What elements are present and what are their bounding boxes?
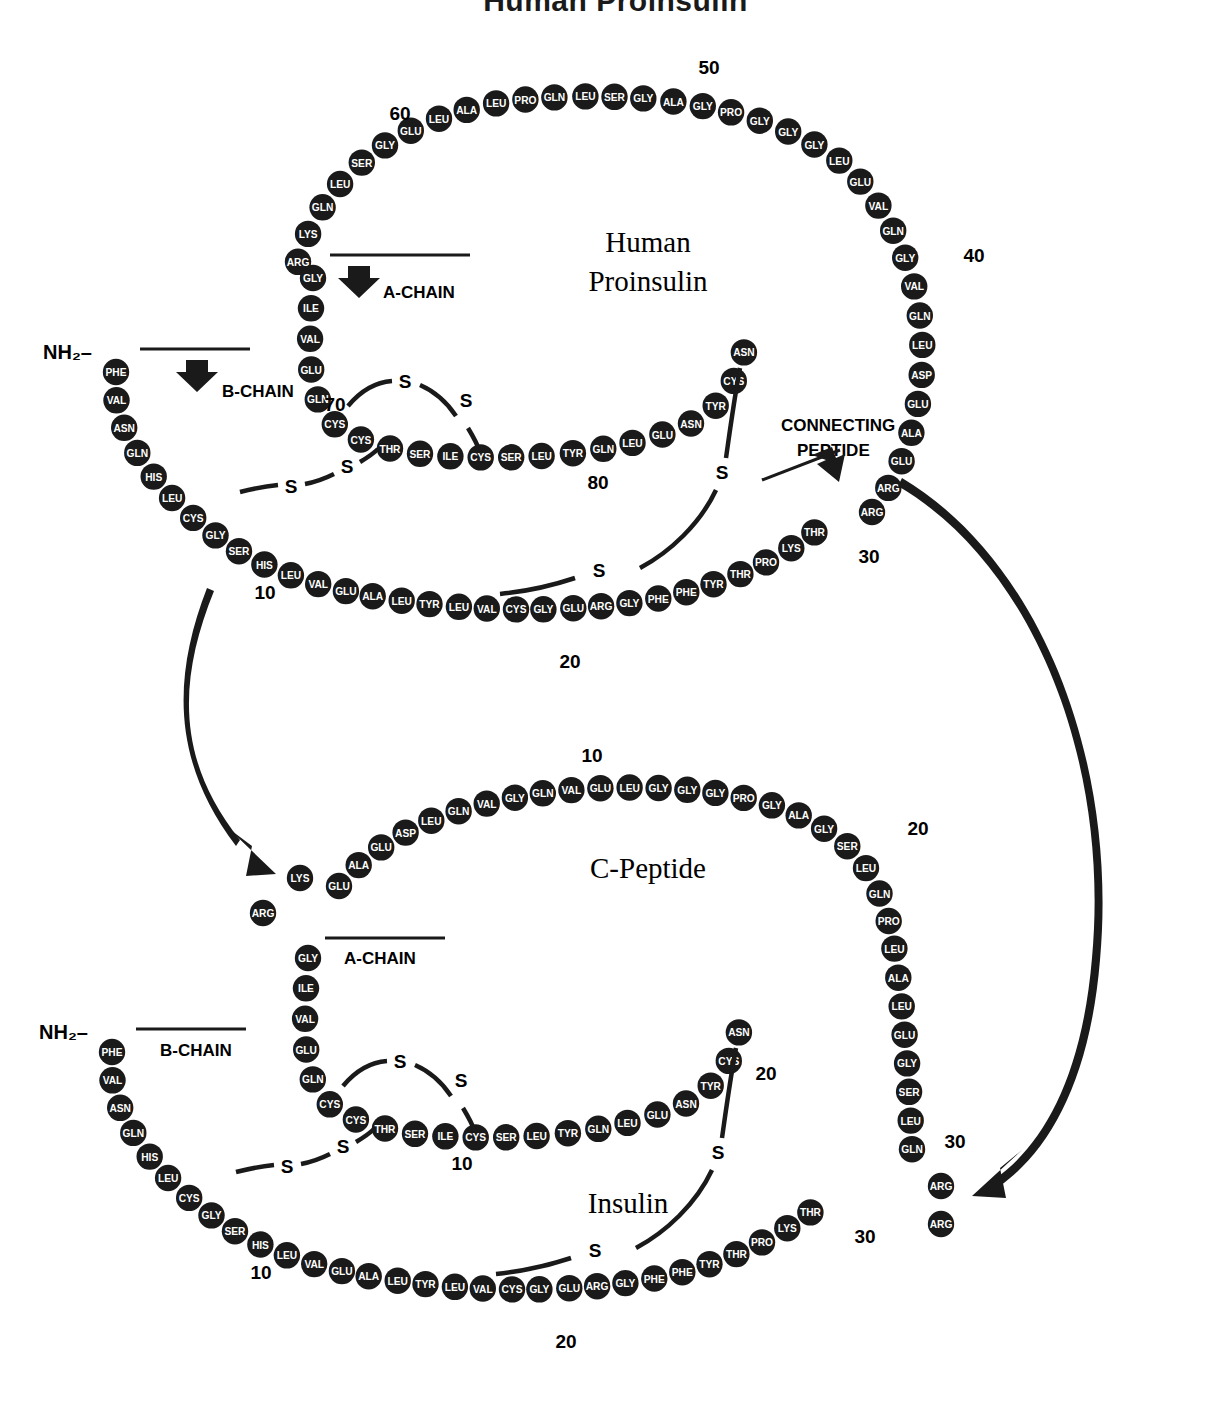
s-label-a6a11-right: S <box>460 390 473 411</box>
s-label-ins-a20b19-lower: S <box>589 1240 602 1261</box>
residue-label: TYR <box>699 1259 720 1270</box>
residue-glu-21: GLU <box>560 595 586 621</box>
residue-thr-30: THR <box>801 519 827 545</box>
residue-label: LEU <box>575 91 595 102</box>
residue-his-5: HIS <box>141 463 167 489</box>
residue-ser-9: SER <box>226 538 252 564</box>
residue-gly-20: GLY <box>526 1276 552 1302</box>
residue-ala-27: ALA <box>454 97 480 123</box>
residue-pro-28: PRO <box>749 1229 775 1255</box>
residue-arg-1: ARG <box>928 1173 954 1199</box>
residue-label: CYS <box>345 1115 366 1126</box>
residue-val-18: VAL <box>470 1275 496 1301</box>
residue-label: ASP <box>395 828 416 839</box>
residue-cys-7: CYS <box>348 426 374 452</box>
residue-label: ALA <box>663 97 685 108</box>
residue-leu-15: LEU <box>389 588 415 614</box>
residue-label: ASN <box>733 347 755 358</box>
number-40-proinsulin: 40 <box>963 245 984 266</box>
b-chain-label-insulin: B-CHAIN <box>160 1041 232 1060</box>
residue-asn-21: ASN <box>726 1019 752 1045</box>
residue-label: ASN <box>109 1103 131 1114</box>
panel-title-proinsulin-line1: Human <box>605 226 691 258</box>
residue-label: LYS <box>291 873 310 884</box>
s-label-a20b19-lower: S <box>593 560 606 581</box>
residue-leu-26: LEU <box>889 993 915 1019</box>
residue-ala-20: ALA <box>660 88 686 114</box>
residue-label: PHE <box>672 1267 693 1278</box>
residue-gly-19: GLY <box>690 93 716 119</box>
residue-glu-4: GLU <box>293 1036 319 1062</box>
residue-label: THR <box>375 1124 397 1135</box>
residue-label: ASN <box>728 1027 750 1038</box>
residue-asp-6: ASP <box>909 362 935 388</box>
residue-label: THR <box>726 1249 748 1260</box>
residue-leu-30: LEU <box>898 1107 924 1133</box>
residue-label: THR <box>804 527 826 538</box>
residue-label: LYS <box>778 1223 797 1234</box>
residue-label: LEU <box>617 1118 637 1129</box>
residue-label: LEU <box>392 596 412 607</box>
residue-label: CYS <box>324 419 345 430</box>
residue-arg-2: ARG <box>928 1211 954 1237</box>
residue-label: LEU <box>884 944 904 955</box>
residue-thr-8: THR <box>377 435 403 461</box>
bond-ins-a6-a11-mid <box>415 1065 451 1096</box>
residue-label: LEU <box>912 340 932 351</box>
residue-label: GLY <box>649 783 669 794</box>
residue-label: PHE <box>648 594 669 605</box>
residue-label: ARG <box>590 601 613 612</box>
residue-glu-5: GLU <box>905 391 931 417</box>
residue-gln-15: GLN <box>585 1116 611 1142</box>
residue-ile-10: ILE <box>437 443 463 469</box>
residue-label: HIS <box>256 560 273 571</box>
residue-arg-1: ARG <box>859 499 885 525</box>
number-20-insulin-bchain: 20 <box>555 1331 576 1352</box>
residue-label: CYS <box>502 1284 523 1295</box>
s-label-ins-a7b7-right: S <box>337 1136 350 1157</box>
residue-thr-27: THR <box>723 1241 749 1267</box>
residue-label: ALA <box>456 105 478 116</box>
residue-leu-32: LEU <box>327 171 353 197</box>
residue-label: ARG <box>287 257 310 268</box>
b-chain-arrow-icon <box>176 360 218 392</box>
number-50-proinsulin: 50 <box>698 57 719 78</box>
panel-title-insulin: Insulin <box>588 1187 669 1219</box>
residue-label: GLY <box>201 1210 221 1221</box>
residue-phe-1: PHE <box>103 359 129 385</box>
residue-label: CYS <box>179 1193 200 1204</box>
residue-leu-28: LEU <box>426 106 452 132</box>
bond-ins-a20-b19-lower <box>496 1258 571 1274</box>
residue-label: TYR <box>419 599 440 610</box>
residue-leu-23: LEU <box>572 83 598 109</box>
residue-gly-10: GLY <box>892 245 918 271</box>
residue-cys-6: CYS <box>322 411 348 437</box>
residue-cys-7: CYS <box>176 1185 202 1211</box>
s-label-a6a11-left: S <box>399 371 412 392</box>
residue-label: GLU <box>590 783 612 794</box>
number-30-proinsulin: 30 <box>858 546 879 567</box>
residue-label: GLN <box>544 92 566 103</box>
residue-thr-27: THR <box>727 561 753 587</box>
residue-label: GLU <box>370 842 392 853</box>
residue-label: GLY <box>762 800 782 811</box>
residue-val-7: VAL <box>474 790 500 816</box>
residue-label: ALA <box>348 860 370 871</box>
residue-label: GLY <box>303 273 323 284</box>
residue-label: LEU <box>445 1282 465 1293</box>
residue-label: GLN <box>448 806 470 817</box>
connecting-peptide-label-line1: CONNECTING <box>781 416 895 435</box>
residue-label: VAL <box>477 799 497 810</box>
residue-tyr-14: TYR <box>560 440 586 466</box>
residue-gly-28: GLY <box>894 1050 920 1076</box>
residue-gly-30: GLY <box>372 132 398 158</box>
residue-label: GLY <box>814 824 834 835</box>
residue-label: GLY <box>750 116 770 127</box>
residue-label: THR <box>730 569 752 580</box>
residue-label: ILE <box>303 303 319 314</box>
residue-val-12: VAL <box>865 192 891 218</box>
residue-gly-23: GLY <box>612 1270 638 1296</box>
residue-gly-14: GLY <box>674 777 700 803</box>
residue-label: GLU <box>891 456 913 467</box>
residue-label: LEU <box>892 1001 912 1012</box>
